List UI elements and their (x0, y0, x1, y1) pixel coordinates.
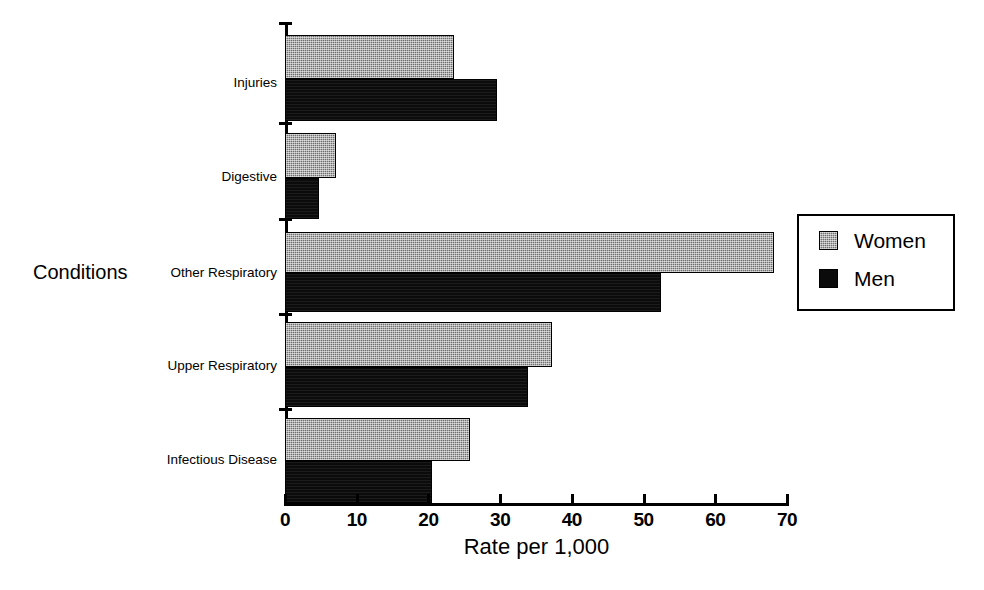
category-label-other-respiratory: Other Respiratory (170, 265, 277, 280)
legend-swatch-women-icon (819, 231, 838, 250)
x-axis-tick-10 (356, 494, 359, 506)
x-axis-ticklabel-70: 70 (777, 509, 797, 531)
bar-digestive-men (285, 178, 319, 219)
bar-chart: Injuries Digestive Other Respiratory Upp… (0, 0, 984, 590)
x-axis-tick-70 (786, 494, 789, 506)
category-label-upper-respiratory: Upper Respiratory (167, 358, 277, 373)
x-axis-line (285, 503, 788, 506)
plot-area (285, 22, 787, 503)
x-axis-tick-50 (643, 494, 646, 506)
x-axis-title: Rate per 1,000 (285, 534, 788, 560)
legend-item-men: Men (819, 268, 895, 289)
bar-injuries-men (285, 79, 497, 121)
bar-other-respiratory-women (285, 232, 774, 273)
category-label-digestive: Digestive (221, 169, 277, 184)
x-axis-ticklabel-60: 60 (705, 509, 725, 531)
y-axis-title: Conditions (33, 261, 128, 284)
bar-upper-respiratory-men (285, 367, 528, 407)
x-axis-ticklabel-20: 20 (418, 509, 438, 531)
category-label-injuries: Injuries (233, 75, 277, 90)
legend-item-women: Women (819, 230, 926, 251)
x-axis-tick-0 (284, 494, 287, 506)
x-axis-ticklabel-50: 50 (633, 509, 653, 531)
bar-digestive-women (285, 133, 336, 178)
bar-other-respiratory-men (285, 273, 661, 312)
bar-injuries-women (285, 35, 454, 79)
x-axis-ticklabel-0: 0 (280, 509, 290, 531)
x-axis-ticklabel-30: 30 (490, 509, 510, 531)
x-axis-tick-40 (571, 494, 574, 506)
legend-label-women: Women (854, 230, 926, 251)
legend-label-men: Men (854, 268, 895, 289)
x-axis-ticklabel-10: 10 (347, 509, 367, 531)
x-axis-tick-60 (714, 494, 717, 506)
bar-upper-respiratory-women (285, 322, 552, 367)
x-axis-tick-30 (499, 494, 502, 506)
category-label-infectious-disease: Infectious Disease (167, 452, 277, 467)
legend-swatch-men-icon (819, 269, 838, 288)
x-axis-tick-20 (427, 494, 430, 506)
bar-infectious-disease-women (285, 418, 470, 461)
legend: Women Men (797, 214, 955, 311)
x-axis-ticklabel-40: 40 (562, 509, 582, 531)
